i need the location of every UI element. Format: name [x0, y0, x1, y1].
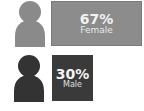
- person-icon-female: [13, 0, 47, 47]
- person-icon-male: [13, 54, 45, 102]
- bar-category-label: Male: [63, 81, 82, 90]
- person-head: [19, 1, 41, 23]
- bar-category-label: Female: [80, 26, 113, 36]
- bar-value-label: 30%: [56, 67, 90, 81]
- bar-value-label: 67%: [80, 12, 114, 26]
- person-body: [14, 75, 44, 102]
- person-head: [18, 55, 40, 77]
- bar-female: 67% Female: [51, 1, 142, 46]
- person-body: [15, 20, 45, 47]
- bar-male: 30% Male: [52, 55, 93, 101]
